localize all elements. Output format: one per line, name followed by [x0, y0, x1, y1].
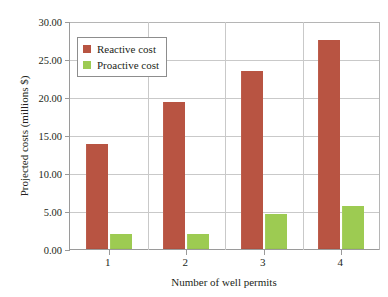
gridline-vertical	[225, 22, 226, 250]
legend-item-proactive[interactable]: Proactive cost	[83, 57, 159, 73]
legend-swatch-reactive-icon	[83, 45, 91, 53]
gridline-vertical	[379, 22, 380, 250]
bar-reactive-cost-1	[86, 144, 108, 249]
legend-item-reactive[interactable]: Reactive cost	[83, 41, 159, 57]
x-axis-tick-label: 4	[320, 256, 360, 268]
y-axis-tick-label: 15.00	[18, 131, 62, 142]
y-axis-tick	[65, 98, 70, 99]
y-axis-tick	[65, 22, 70, 23]
x-axis-tick	[186, 250, 187, 255]
bar-reactive-cost-3	[241, 71, 263, 249]
y-axis-tick	[65, 250, 70, 251]
y-axis-tick	[65, 212, 70, 213]
x-axis-title: Number of well permits	[60, 276, 388, 288]
y-axis-tick-label: 25.00	[18, 55, 62, 66]
bar-proactive-cost-4	[342, 206, 364, 249]
bar-reactive-cost-4	[318, 40, 340, 249]
chart-legend: Reactive costProactive cost	[77, 37, 167, 77]
x-axis-tick	[264, 250, 265, 255]
x-axis-tick	[341, 250, 342, 255]
y-axis-tick-label: 5.00	[18, 207, 62, 218]
y-axis-tick-label: 10.00	[18, 169, 62, 180]
x-axis-tick-label: 2	[165, 256, 205, 268]
bar-chart-figure: Projected costs (millions $) 0.005.0010.…	[0, 0, 388, 297]
y-axis-tick-label: 20.00	[18, 93, 62, 104]
y-axis-tick	[65, 136, 70, 137]
bar-proactive-cost-3	[265, 214, 287, 249]
y-axis-tick	[65, 174, 70, 175]
legend-swatch-proactive-icon	[83, 61, 91, 69]
bar-reactive-cost-2	[163, 102, 185, 249]
legend-label: Proactive cost	[97, 59, 159, 71]
y-axis-tick-label: 30.00	[18, 17, 62, 28]
y-axis-tick	[65, 60, 70, 61]
x-axis-tick-label: 3	[243, 256, 283, 268]
bar-proactive-cost-2	[187, 234, 209, 249]
y-axis-tick-label: 0.00	[18, 245, 62, 256]
legend-label: Reactive cost	[97, 43, 156, 55]
x-axis-tick-label: 1	[88, 256, 128, 268]
bar-proactive-cost-1	[110, 234, 132, 249]
gridline-vertical	[303, 22, 304, 250]
x-axis-tick	[109, 250, 110, 255]
